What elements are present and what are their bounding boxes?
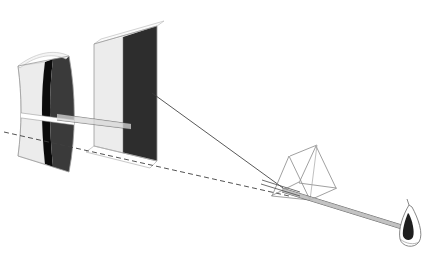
curved-screen-shadow-region bbox=[50, 56, 74, 172]
curved-screen bbox=[14, 52, 74, 172]
flat-screen-shadow-region bbox=[123, 26, 157, 161]
prism-optics-figure: Newton prism experiment: dispersion of a… bbox=[0, 0, 426, 256]
flat-screen bbox=[86, 21, 164, 168]
flat-screen-light-region bbox=[94, 37, 123, 153]
figure-canvas bbox=[0, 0, 426, 256]
